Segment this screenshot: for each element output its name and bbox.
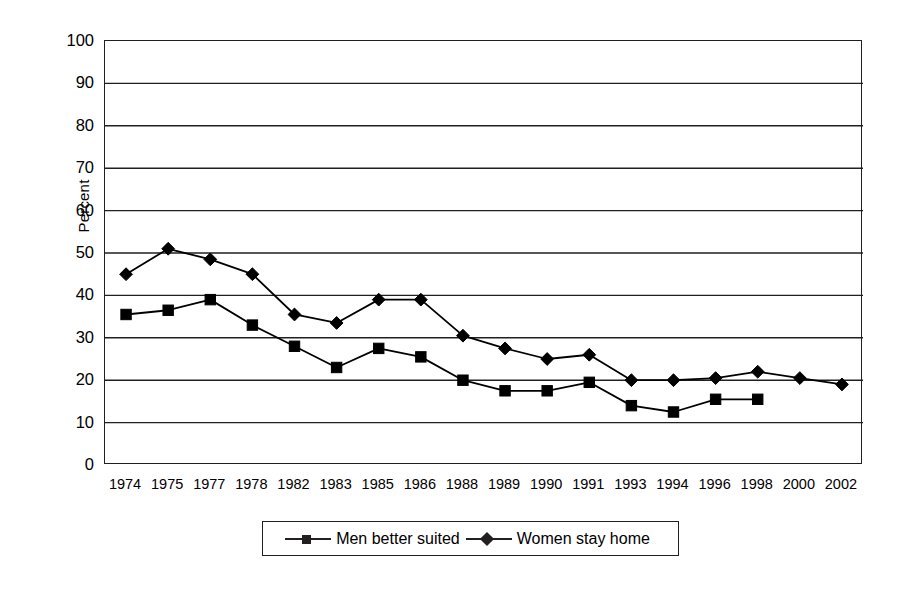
data-point-square [753,394,763,404]
x-tick-label: 1985 [362,476,394,492]
legend-marker [480,531,494,545]
x-tick-label: 2002 [825,476,857,492]
data-point-square [121,309,131,319]
x-tick-label: 1986 [404,476,436,492]
y-tick-label: 50 [48,244,94,260]
legend-entry: Women stay home [466,530,656,548]
legend-entry: Men better suited [285,530,466,548]
data-point-square [542,386,552,396]
x-tick-label: 1975 [151,476,183,492]
data-point-square [163,305,173,315]
x-tick-label: 1983 [319,476,351,492]
data-point-diamond [330,317,343,330]
plot-area [104,40,862,464]
legend-marker-diamond-icon [466,531,512,547]
x-tick-label: 1977 [193,476,225,492]
data-point-square [584,377,594,387]
y-tick-label: 20 [48,371,94,387]
gridlines [105,83,863,422]
series-men-better-suited [121,294,763,417]
data-point-square [710,394,720,404]
x-tick-label: 1990 [530,476,562,492]
x-tick-label: 1993 [614,476,646,492]
x-tick-label: 2000 [783,476,815,492]
data-point-diamond [625,374,638,387]
y-tick-label: 30 [48,329,94,345]
y-tick-label: 100 [48,32,94,48]
series-women-stay-home [120,242,849,390]
data-point-diamond [583,348,596,361]
data-point-square [374,343,384,353]
data-point-diamond [667,374,680,387]
x-tick-label: 1982 [277,476,309,492]
x-tick-label: 1974 [109,476,141,492]
data-point-square [626,400,636,410]
data-point-square [289,341,299,351]
y-tick-label: 40 [48,286,94,302]
y-tick-label: 10 [48,414,94,430]
data-point-square [500,386,510,396]
data-point-diamond [120,268,133,281]
line-chart: Percent 0102030405060708090100 197419751… [0,0,897,601]
y-tick-label: 80 [48,117,94,133]
data-point-square [458,375,468,385]
legend-marker-square-icon [285,531,331,547]
x-tick-label: 1998 [741,476,773,492]
data-point-diamond [499,342,512,355]
x-tick-label: 1989 [488,476,520,492]
chart-legend: Men better suitedWomen stay home [262,521,679,556]
x-tick-label: 1994 [656,476,688,492]
legend-marker [302,535,311,544]
data-point-square [668,407,678,417]
x-tick-label: 1991 [572,476,604,492]
data-point-diamond [204,253,217,266]
data-point-square [416,352,426,362]
y-tick-label: 60 [48,202,94,218]
data-point-diamond [751,365,764,378]
y-tick-label: 70 [48,159,94,175]
legend-label: Women stay home [512,530,656,548]
chart-svg [105,41,863,465]
data-point-diamond [541,353,554,366]
series-line [126,249,842,385]
x-tick-label: 1988 [446,476,478,492]
legend-label: Men better suited [331,530,466,548]
data-point-square [331,362,341,372]
data-point-diamond [709,372,722,385]
y-tick-label: 90 [48,74,94,90]
data-point-diamond [793,372,806,385]
data-point-square [247,320,257,330]
data-point-square [205,294,215,304]
x-tick-label: 1978 [235,476,267,492]
y-tick-label: 0 [48,456,94,472]
x-tick-label: 1996 [698,476,730,492]
